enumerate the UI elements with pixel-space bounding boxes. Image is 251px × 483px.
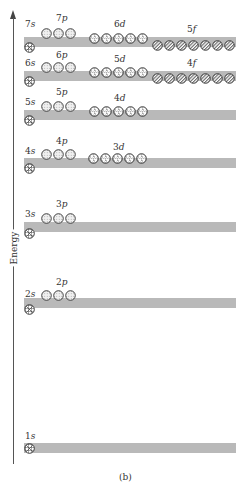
p-orbital-circle-icon: [41, 149, 52, 160]
figure-caption: (b): [0, 472, 251, 482]
s-orbital-circle-icon: [24, 42, 35, 53]
d-orbital-circle-icon: [113, 106, 124, 117]
subshell-label-5p: 5p: [56, 88, 68, 97]
d-orbital-circle-icon: [136, 153, 147, 164]
subshell-label-7s: 7s: [25, 20, 35, 29]
subshell-label-2p: 2p: [56, 278, 68, 287]
subshell-label-6s: 6s: [25, 59, 35, 68]
subshell-label-4s: 4s: [25, 147, 35, 156]
energy-band-n1: [24, 443, 236, 453]
f-orbital-circle-icon: [152, 73, 163, 84]
d-orbital-circle-icon: [89, 106, 100, 117]
subshell-label-1s: 1s: [25, 432, 35, 441]
p-orbital-circle-icon: [41, 101, 52, 112]
subshell-label-4p: 4p: [56, 137, 68, 146]
subshell-label-3s: 3s: [25, 210, 35, 219]
p-orbital-circle-icon: [65, 101, 76, 112]
f-orbital-circle-icon: [188, 73, 199, 84]
d-orbital-circle-icon: [125, 67, 136, 78]
f-orbital-circle-icon: [200, 40, 211, 51]
subshell-label-5f: 5f: [187, 25, 196, 34]
subshell-label-5s: 5s: [25, 98, 35, 107]
subshell-label-6d: 6d: [114, 20, 126, 29]
energy-axis-label: Energy: [9, 230, 19, 267]
f-orbital-circle-icon: [188, 40, 199, 51]
p-orbital-circle-icon: [53, 62, 64, 73]
d-orbital-circle-icon: [125, 106, 136, 117]
p-orbital-circle-icon: [53, 101, 64, 112]
p-orbital-circle-icon: [65, 149, 76, 160]
d-orbital-circle-icon: [101, 106, 112, 117]
subshell-label-7p: 7p: [56, 14, 68, 23]
d-orbital-circle-icon: [89, 33, 100, 44]
d-orbital-circle-icon: [101, 33, 112, 44]
p-orbital-circle-icon: [53, 213, 64, 224]
subshell-label-3p: 3p: [56, 200, 68, 209]
s-orbital-circle-icon: [24, 163, 35, 174]
s-orbital-circle-icon: [24, 443, 35, 454]
d-orbital-circle-icon: [100, 153, 111, 164]
p-orbital-circle-icon: [65, 28, 76, 39]
p-orbital-circle-icon: [41, 213, 52, 224]
d-orbital-circle-icon: [137, 106, 148, 117]
f-orbital-circle-icon: [152, 40, 163, 51]
f-orbital-circle-icon: [224, 73, 235, 84]
p-orbital-circle-icon: [53, 28, 64, 39]
f-orbital-circle-icon: [164, 40, 175, 51]
s-orbital-circle-icon: [24, 76, 35, 87]
orbital-energy-diagram: Energy 7s7p6d5f6s6p5d4f5s5p4d4s4p3d3s3p2…: [0, 0, 251, 483]
p-orbital-circle-icon: [65, 290, 76, 301]
p-orbital-circle-icon: [53, 149, 64, 160]
subshell-label-5d: 5d: [114, 55, 126, 64]
p-orbital-circle-icon: [53, 290, 64, 301]
s-orbital-circle-icon: [24, 304, 35, 315]
s-orbital-circle-icon: [24, 115, 35, 126]
d-orbital-circle-icon: [137, 67, 148, 78]
f-orbital-circle-icon: [200, 73, 211, 84]
f-orbital-circle-icon: [212, 73, 223, 84]
f-orbital-circle-icon: [212, 40, 223, 51]
p-orbital-circle-icon: [41, 28, 52, 39]
f-orbital-circle-icon: [176, 40, 187, 51]
f-orbital-circle-icon: [164, 73, 175, 84]
d-orbital-circle-icon: [124, 153, 135, 164]
d-orbital-circle-icon: [137, 33, 148, 44]
subshell-label-4f: 4f: [187, 59, 196, 68]
subshell-label-4d: 4d: [114, 94, 126, 103]
p-orbital-circle-icon: [65, 62, 76, 73]
f-orbital-circle-icon: [176, 73, 187, 84]
f-orbital-circle-icon: [224, 40, 235, 51]
d-orbital-circle-icon: [113, 33, 124, 44]
subshell-label-2s: 2s: [25, 290, 35, 299]
subshell-label-6p: 6p: [56, 51, 68, 60]
subshell-label-3d: 3d: [113, 143, 125, 152]
p-orbital-circle-icon: [41, 62, 52, 73]
d-orbital-circle-icon: [112, 153, 123, 164]
p-orbital-circle-icon: [41, 290, 52, 301]
p-orbital-circle-icon: [65, 213, 76, 224]
d-orbital-circle-icon: [88, 153, 99, 164]
d-orbital-circle-icon: [101, 67, 112, 78]
d-orbital-circle-icon: [89, 67, 100, 78]
d-orbital-circle-icon: [125, 33, 136, 44]
d-orbital-circle-icon: [113, 67, 124, 78]
s-orbital-circle-icon: [24, 228, 35, 239]
